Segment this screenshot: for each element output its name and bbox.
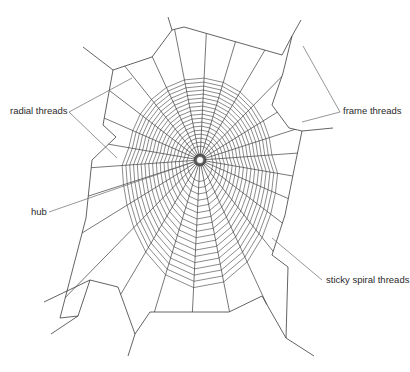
spider-web-diagram [0, 0, 410, 372]
label-hub: hub [31, 207, 47, 217]
label-radial-threads: radial threads [10, 106, 68, 116]
label-frame-threads: frame threads [343, 106, 402, 116]
hub [194, 154, 206, 166]
frame-threads [44, 17, 333, 356]
label-sticky-spiral-threads: sticky spiral threads [326, 275, 409, 285]
sticky-spiral-threads [122, 78, 278, 288]
